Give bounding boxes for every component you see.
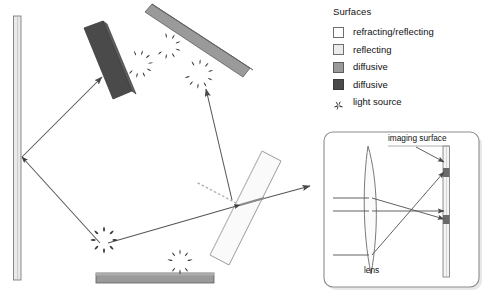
inset-panel xyxy=(324,132,479,287)
imaging-surface-label: imaging surface xyxy=(388,133,447,143)
lens-label: lens xyxy=(364,265,379,275)
imaging-surface xyxy=(443,146,450,277)
optics-diagram: Surfaces refracting/reflecting reflectin… xyxy=(0,0,485,296)
image-point-lower xyxy=(443,215,450,224)
inset-layer xyxy=(0,0,485,296)
